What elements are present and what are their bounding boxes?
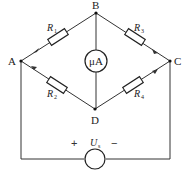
arrow-icon	[152, 49, 158, 54]
r3-label: R	[133, 22, 140, 33]
r1-subscript: 1	[54, 28, 57, 34]
source-subscript: s	[98, 143, 101, 149]
node-d-dot	[93, 107, 96, 110]
voltage-source: + U s −	[71, 137, 117, 169]
resistor-r2: R 2	[46, 77, 67, 100]
node-a-label: A	[8, 55, 16, 67]
r3-subscript: 3	[141, 28, 144, 34]
arrow-icon	[152, 69, 158, 74]
wheatstone-bridge-diagram: R 1 R 3 R 2 R 4 μA A B C D + U s −	[0, 0, 185, 173]
node-c-label: C	[174, 55, 181, 67]
meter-label: μA	[89, 55, 103, 67]
microammeter: μA	[85, 50, 107, 72]
r4-label: R	[133, 88, 140, 99]
r2-label: R	[46, 88, 53, 99]
node-b-label: B	[92, 0, 99, 11]
r1-label: R	[46, 22, 53, 33]
resistor-r3: R 3	[125, 22, 146, 45]
resistor-r4: R 4	[123, 77, 144, 100]
r4-subscript: 4	[141, 94, 144, 100]
source-label: U	[90, 137, 98, 148]
node-a-dot	[19, 59, 22, 62]
node-b-dot	[94, 11, 97, 14]
r2-subscript: 2	[54, 94, 57, 100]
minus-sign: −	[111, 137, 117, 149]
plus-sign: +	[71, 137, 77, 149]
node-c-dot	[168, 59, 171, 62]
resistor-r1: R 1	[46, 22, 68, 45]
node-d-label: D	[91, 114, 99, 126]
